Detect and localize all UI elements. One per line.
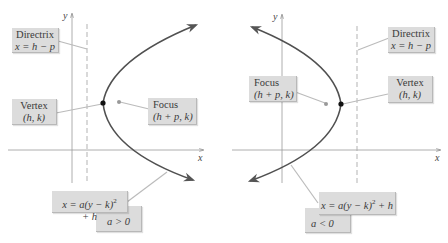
left-equation-leader <box>127 172 167 202</box>
left-vertex-coords: (h, k) <box>14 112 54 124</box>
right-focus-coords: (h + p, k) <box>254 89 294 101</box>
right-focus-dot <box>324 102 328 106</box>
right-focus-title: Focus <box>254 77 294 89</box>
left-equation-exponent: 2 <box>113 197 117 205</box>
left-directrix-label: Directrix x = h − p <box>12 28 59 53</box>
left-equation-lhs: x = a(y − k) <box>62 199 113 210</box>
right-equation-lhs: x = a(y − k) <box>321 200 372 211</box>
left-focus-title: Focus <box>153 99 194 111</box>
right-vertex-dot <box>338 101 343 106</box>
left-directrix-leader <box>58 41 87 49</box>
left-directrix-formula: x = h − p <box>14 41 56 53</box>
right-directrix-formula: x = h − p <box>390 40 432 52</box>
left-vertex-dot <box>100 100 105 105</box>
left-y-axis-label: y <box>63 10 67 21</box>
right-directrix-label: Directrix x = h − p <box>388 27 435 53</box>
right-vertex-leader <box>343 94 388 104</box>
left-focus-label: Focus (h + p, k) <box>148 98 197 125</box>
right-equation-leader <box>291 165 318 203</box>
left-condition: a > 0 <box>107 216 130 227</box>
left-directrix-title: Directrix <box>14 29 56 41</box>
left-vertex-title: Vertex <box>14 100 54 112</box>
left-x-axis-label: x <box>198 152 202 163</box>
left-vertex-leader <box>56 104 102 113</box>
right-equation-rhs: + h <box>375 200 393 211</box>
left-focus-dot <box>117 100 121 104</box>
left-equation-label: x = a(y − k)2 + h <box>52 191 128 213</box>
right-vertex-label: Vertex (h, k) <box>388 76 433 103</box>
right-focus-label: Focus (h + p, k) <box>249 76 297 102</box>
left-focus-coords: (h + p, k) <box>153 111 194 123</box>
right-x-axis-label: x <box>435 152 439 163</box>
left-focus-leader <box>120 102 149 109</box>
right-y-axis-label: y <box>273 11 277 22</box>
right-equation-label: x = a(y − k)2 + h <box>319 192 396 215</box>
right-vertex-title: Vertex <box>390 77 430 89</box>
right-directrix-leader <box>358 38 389 50</box>
right-directrix-title: Directrix <box>390 28 432 40</box>
right-condition: a < 0 <box>311 218 334 229</box>
left-vertex-label: Vertex (h, k) <box>12 99 57 125</box>
left-equation-rhs: + h <box>82 211 97 222</box>
right-vertex-coords: (h, k) <box>390 89 430 101</box>
